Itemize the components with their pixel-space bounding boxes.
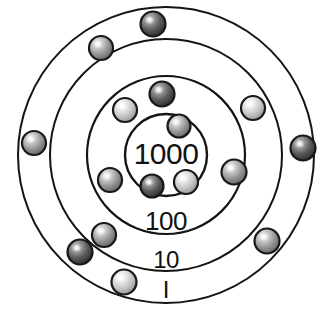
bead-body	[92, 223, 116, 247]
bead-body	[89, 36, 113, 60]
bead-icon[interactable]	[168, 115, 191, 138]
bead-icon[interactable]	[112, 270, 137, 295]
bead-icon[interactable]	[255, 229, 280, 254]
bead-body	[98, 168, 122, 192]
bead-body	[141, 12, 166, 37]
bead-icon[interactable]	[141, 12, 166, 37]
bead-body	[291, 136, 316, 161]
bead-body	[113, 98, 137, 122]
bead-highlight	[93, 40, 103, 48]
bead-icon[interactable]	[222, 160, 247, 185]
bead-highlight	[145, 16, 155, 24]
bead-body	[255, 229, 280, 254]
bead-highlight	[226, 164, 236, 172]
bead-highlight	[26, 135, 36, 143]
bead-highlight	[171, 119, 180, 127]
bead-highlight	[245, 100, 255, 108]
bead-body	[150, 82, 175, 107]
bead-body	[174, 170, 198, 194]
bead-body	[68, 240, 93, 265]
bead-highlight	[178, 174, 188, 182]
place-value-label-10: 10	[153, 246, 179, 273]
bead-icon[interactable]	[291, 136, 316, 161]
diagram-canvas: 100010010I	[0, 0, 332, 329]
bead-highlight	[72, 244, 82, 252]
bead-highlight	[96, 227, 106, 235]
bead-icon[interactable]	[141, 175, 164, 198]
bead-highlight	[154, 86, 164, 94]
bead-highlight	[117, 102, 127, 110]
place-value-label-1: I	[163, 276, 170, 303]
bead-body	[141, 175, 164, 198]
bead-icon[interactable]	[92, 223, 116, 247]
bead-body	[168, 115, 191, 138]
abacus-diagram: 100010010I	[0, 0, 332, 329]
bead-icon[interactable]	[174, 170, 198, 194]
bead-body	[112, 270, 137, 295]
bead-body	[241, 96, 265, 120]
bead-icon[interactable]	[241, 96, 265, 120]
bead-icon[interactable]	[89, 36, 113, 60]
place-value-labels-group: 100010010I	[134, 137, 199, 303]
bead-highlight	[259, 233, 269, 241]
bead-highlight	[116, 274, 126, 282]
bead-body	[22, 131, 46, 155]
place-value-label-100: 100	[145, 206, 187, 236]
place-value-label-1000: 1000	[134, 137, 199, 170]
bead-highlight	[295, 140, 305, 148]
bead-icon[interactable]	[98, 168, 122, 192]
bead-body	[222, 160, 247, 185]
bead-icon[interactable]	[150, 82, 175, 107]
bead-icon[interactable]	[113, 98, 137, 122]
bead-highlight	[144, 179, 153, 187]
bead-highlight	[102, 172, 112, 180]
bead-icon[interactable]	[22, 131, 46, 155]
bead-icon[interactable]	[68, 240, 93, 265]
